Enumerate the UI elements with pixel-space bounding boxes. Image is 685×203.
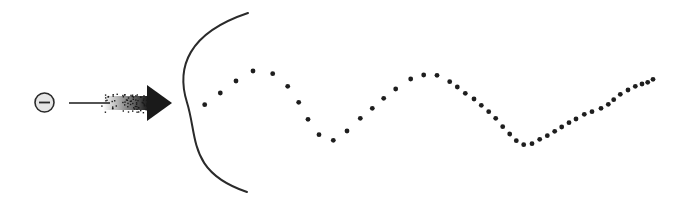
trajectory-dot [559,125,564,130]
trajectory-dot [234,79,239,84]
trajectory-dot [507,132,512,137]
trajectory-dot [640,82,645,87]
trajectory-dot [618,92,623,97]
trajectory-dot [345,129,350,134]
trajectory-dot [486,109,491,114]
trajectory-dot [421,73,426,78]
trajectory-dot [500,124,505,129]
trajectory-dot [472,97,477,102]
incoming-arrow-icon [69,85,172,121]
trajectory-dot [545,133,550,138]
trajectory-dot [633,84,638,89]
diagram-figure [0,0,685,203]
trajectory-dot [537,137,542,142]
arrowhead-icon [147,85,172,121]
arrow-shaft [103,96,148,110]
dotted-wave-trajectory [202,69,655,148]
trajectory-dot [552,129,557,134]
trajectory-dot [370,106,375,111]
trajectory-dot [493,116,498,121]
trajectory-dot [463,91,468,96]
trajectory-dot [626,88,631,93]
trajectory-dot [651,77,656,82]
trajectory-dot [514,138,519,143]
curved-boundary [183,13,248,192]
trajectory-dot [251,69,256,74]
trajectory-dot [202,102,207,107]
trajectory-dot [408,77,413,82]
trajectory-dot [521,142,526,147]
trajectory-dot [447,79,452,84]
trajectory-dot [317,132,322,137]
diagram-canvas [0,0,685,203]
trajectory-dot [285,84,290,89]
trajectory-dot [611,97,616,102]
trajectory-dot [599,106,604,111]
trajectory-dot [582,112,587,117]
trajectory-dot [574,117,579,122]
trajectory-dot [358,116,363,121]
trajectory-dot [435,73,440,78]
trajectory-dot [590,109,595,114]
trajectory-dot [606,102,611,107]
trajectory-dot [270,71,275,76]
trajectory-dot [218,91,223,96]
trajectory-dot [331,138,336,143]
trajectory-dot [479,103,484,108]
trajectory-dot [455,85,460,90]
negative-particle-icon [35,93,54,112]
trajectory-dot [381,96,386,101]
trajectory-dot [296,100,301,105]
trajectory-dot [567,120,572,125]
trajectory-dot [306,117,311,122]
trajectory-dot [645,80,650,85]
trajectory-dot [530,141,535,146]
trajectory-dot [393,87,398,92]
